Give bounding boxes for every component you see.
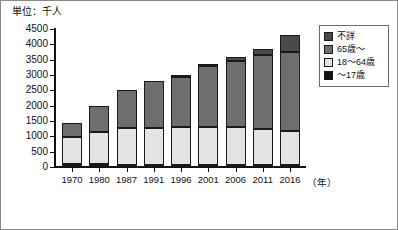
bar-segment [171,127,191,164]
bar-2011 [253,29,273,167]
bar-segment [226,127,246,165]
plot-area: 0500100015002000250030003500400045001970… [55,29,305,167]
y-axis-tick [50,90,55,91]
y-axis-label: 2500 [26,85,48,95]
x-axis-tick [290,167,291,172]
bar-segment [253,129,273,165]
y-axis-label: 1500 [26,116,48,126]
x-axis-label: 2011 [253,175,273,185]
y-axis-label: 4500 [26,24,48,34]
x-axis-label: 1991 [143,175,164,185]
y-axis-label: 3000 [26,70,48,80]
x-axis-tick [99,167,100,172]
bar-1991 [144,29,164,167]
y-axis-tick [50,136,55,137]
x-axis-tick [263,167,264,172]
bar-segment [144,81,164,127]
legend-label: ～17歳 [337,71,365,80]
x-axis-label: 1987 [116,175,137,185]
bar-2016 [280,29,300,167]
bar-segment [171,77,191,128]
bar-segment [89,132,109,165]
unit-label: 単位：千人 [12,3,62,18]
bar-segment [226,57,246,60]
chart-legend: 不詳 65歳～ 18～64歳 ～17歳 [319,25,389,87]
y-axis-tick [50,29,55,30]
legend-label: 不詳 [337,32,355,41]
y-axis-label: 3500 [26,55,48,65]
y-axis-tick [50,167,55,168]
bar-segment [117,90,137,128]
legend-item: ～17歳 [324,69,384,82]
bar-segment [226,61,246,127]
bar-segment [280,131,300,165]
bar-segment [253,55,273,129]
bar-1987 [117,29,137,167]
y-axis-tick [50,60,55,61]
bar-segment [253,49,273,55]
legend-swatch-unknown [324,32,333,41]
legend-label: 18～64歳 [337,58,375,67]
bar-segment [117,128,137,164]
x-axis-label: 2006 [225,175,246,185]
x-axis-label: 1996 [170,175,191,185]
bar-segment [171,75,191,77]
legend-item: 不詳 [324,30,384,43]
x-axis-label: 2016 [279,175,300,185]
x-axis-tick [236,167,237,172]
bar-segment [280,35,300,51]
bar-1996 [171,29,191,167]
legend-label: 65歳～ [337,45,365,54]
y-axis-label: 0 [42,162,48,172]
bar-2001 [198,29,218,167]
bar-segment [89,106,109,131]
bar-segment [198,64,218,66]
x-axis-tick [72,167,73,172]
legend-swatch-under17 [324,71,333,80]
y-axis-tick [50,152,55,153]
y-axis-tick [50,75,55,76]
y-axis-label: 500 [31,147,48,157]
bar-segment [62,137,82,164]
bar-segment [198,66,218,128]
y-axis-tick [50,121,55,122]
y-axis-label: 1000 [26,131,48,141]
x-axis-tick [208,167,209,172]
legend-item: 65歳～ [324,43,384,56]
bar-segment [62,123,82,137]
bar-1980 [89,29,109,167]
x-axis-tick [127,167,128,172]
x-axis-tick [181,167,182,172]
bar-2006 [226,29,246,167]
y-axis-label: 2000 [26,101,48,111]
bar-1970 [62,29,82,167]
bar-segment [144,128,164,165]
y-axis-tick [50,44,55,45]
legend-swatch-18to64 [324,58,333,67]
chart-frame: 単位：千人 0500100015002000250030003500400045… [0,0,398,230]
bar-segment [280,52,300,131]
bar-segment [198,127,218,165]
legend-item: 18～64歳 [324,56,384,69]
legend-swatch-65plus [324,45,333,54]
x-axis-unit-label: （年） [307,175,337,189]
y-axis-label: 4000 [26,39,48,49]
x-axis-tick [154,167,155,172]
x-axis-label: 2001 [198,175,219,185]
x-axis-label: 1970 [61,175,82,185]
y-axis-tick [50,106,55,107]
x-axis-label: 1980 [89,175,110,185]
